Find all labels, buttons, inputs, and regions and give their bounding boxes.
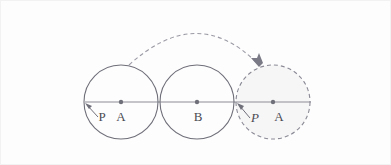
label-p-right: P [250,110,259,125]
motion-arc [129,33,257,65]
motion-arc-arrowhead-icon [251,53,263,67]
label-a-left: A [116,109,126,124]
rolling-circle-diagram: P A B P A [1,1,391,165]
label-a-right: A [274,109,284,124]
label-p-left: P [98,109,105,124]
pointer-p-left-arrowhead-icon [85,103,92,109]
dot-center-b [195,100,199,104]
label-b: B [194,109,203,124]
diagram-canvas: P A B P A [0,0,391,165]
dot-center-a-left [119,100,123,104]
dot-center-a-right [271,100,275,104]
